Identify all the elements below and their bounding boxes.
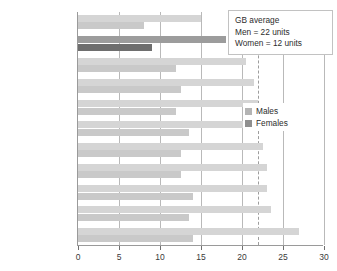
chart-row: West Midlands xyxy=(78,140,323,161)
x-tick-label-10: 10 xyxy=(155,252,164,262)
chart-row: South West xyxy=(78,161,323,182)
legend-label-males: Males xyxy=(256,106,278,116)
bar-males xyxy=(78,58,246,65)
x-tick-30 xyxy=(324,246,325,250)
chart-row: South East xyxy=(78,182,323,203)
chart-row: East Midlands xyxy=(78,225,323,246)
x-tick-15 xyxy=(201,246,202,250)
bar-females xyxy=(78,235,193,242)
bar-females xyxy=(78,65,176,72)
x-tick-label-5: 5 xyxy=(117,252,122,262)
x-tick-label-20: 20 xyxy=(237,252,246,262)
bar-males xyxy=(78,143,263,150)
x-tick-label-25: 25 xyxy=(278,252,287,262)
legend-swatch-males-icon xyxy=(245,108,252,115)
legend-label-females: Females xyxy=(256,118,288,128)
bar-males xyxy=(78,79,254,86)
legend-item-males: Males xyxy=(245,106,288,116)
bar-females xyxy=(78,193,193,200)
bar-chart: 051015202530ScotlandNorth EastNorth West… xyxy=(0,0,337,271)
bar-females xyxy=(78,44,152,51)
bar-males xyxy=(78,164,267,171)
bar-males xyxy=(78,206,271,213)
bar-males xyxy=(78,15,201,22)
annotation-line-3: Women = 12 units xyxy=(235,38,328,50)
bar-females xyxy=(78,171,181,178)
chart-legend: Males Females xyxy=(243,103,290,131)
annotation-line-1: GB average xyxy=(235,15,328,27)
bar-females xyxy=(78,150,181,157)
x-tick-0 xyxy=(78,246,79,250)
x-tick-20 xyxy=(242,246,243,250)
bar-females xyxy=(78,214,189,221)
bar-males xyxy=(78,228,299,235)
chart-row: Wales xyxy=(78,76,323,97)
x-tick-25 xyxy=(283,246,284,250)
bar-females xyxy=(78,22,144,29)
x-tick-label-15: 15 xyxy=(196,252,205,262)
bar-males xyxy=(78,121,258,128)
bar-females xyxy=(78,108,176,115)
legend-swatch-females-icon xyxy=(245,120,252,127)
chart-row: London xyxy=(78,203,323,224)
x-tick-label-0: 0 xyxy=(76,252,81,262)
bar-females xyxy=(78,86,181,93)
bar-females xyxy=(78,129,189,136)
bar-males xyxy=(78,100,258,107)
bar-males xyxy=(78,36,226,43)
bar-males xyxy=(78,185,267,192)
x-tick-5 xyxy=(119,246,120,250)
chart-row: North West xyxy=(78,55,323,76)
x-tick-10 xyxy=(160,246,161,250)
gb-average-annotation: GB average Men = 22 units Women = 12 uni… xyxy=(228,10,333,55)
legend-item-females: Females xyxy=(245,118,288,128)
x-tick-label-30: 30 xyxy=(319,252,328,262)
annotation-line-2: Men = 22 units xyxy=(235,27,328,39)
